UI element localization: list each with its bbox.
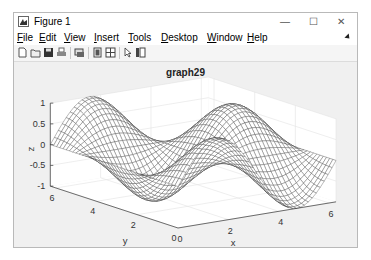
minimize-button[interactable]: —: [271, 14, 299, 30]
toolbar-separator: [119, 47, 120, 59]
svg-text:0: 0: [40, 140, 45, 150]
window-title: Figure 1: [34, 16, 71, 27]
print-icon[interactable]: [56, 47, 67, 58]
link-plot-icon[interactable]: [74, 47, 85, 58]
svg-text:1: 1: [40, 98, 45, 108]
figure-canvas: graph29 02460246-1-0.500.51xyz: [14, 62, 357, 247]
menu-view[interactable]: View: [64, 32, 86, 43]
menu-bar: File Edit View Insert Tools Desktop Wind…: [14, 31, 357, 45]
show-plot-tools-icon[interactable]: [105, 47, 116, 58]
svg-text:-0.5: -0.5: [30, 160, 46, 170]
toolbar-separator: [70, 47, 71, 59]
svg-text:z: z: [25, 146, 36, 151]
insert-colorbar-icon[interactable]: [135, 47, 146, 58]
svg-text:6: 6: [49, 193, 54, 203]
svg-text:4: 4: [90, 206, 95, 216]
svg-text:y: y: [123, 235, 128, 246]
svg-text:2: 2: [228, 226, 233, 236]
svg-text:4: 4: [278, 217, 283, 227]
svg-text:6: 6: [328, 209, 333, 219]
close-button[interactable]: ✕: [327, 14, 355, 30]
menu-file[interactable]: File: [17, 32, 33, 43]
menu-insert[interactable]: Insert: [94, 32, 119, 43]
title-bar[interactable]: Figure 1 — ☐ ✕: [14, 13, 357, 31]
figure-window: Figure 1 — ☐ ✕ File Edit View Insert Too…: [13, 12, 358, 248]
svg-text:2: 2: [131, 220, 136, 230]
menu-window[interactable]: Window: [207, 32, 243, 43]
menu-tools[interactable]: Tools: [128, 32, 151, 43]
surface-plot-axes[interactable]: 02460246-1-0.500.51xyz: [14, 62, 359, 249]
svg-text:0.5: 0.5: [33, 119, 46, 129]
svg-text:0: 0: [171, 233, 176, 243]
dock-figure-icon[interactable]: [344, 33, 351, 40]
svg-text:0: 0: [177, 234, 182, 244]
matlab-figure-icon: [18, 16, 29, 27]
svg-text:-1: -1: [37, 181, 45, 191]
menu-help[interactable]: Help: [247, 32, 268, 43]
menu-edit[interactable]: Edit: [39, 32, 56, 43]
edit-plot-arrow-icon[interactable]: [123, 47, 134, 58]
save-icon[interactable]: [43, 47, 54, 58]
svg-text:x: x: [231, 237, 236, 248]
maximize-button[interactable]: ☐: [299, 14, 327, 30]
open-file-icon[interactable]: [30, 47, 41, 58]
menu-desktop[interactable]: Desktop: [161, 32, 198, 43]
figure-toolbar: [14, 45, 357, 62]
new-figure-icon[interactable]: [17, 47, 28, 58]
toolbar-separator: [88, 47, 89, 59]
hide-plot-tools-icon[interactable]: [92, 47, 103, 58]
